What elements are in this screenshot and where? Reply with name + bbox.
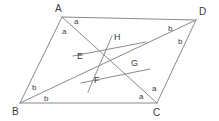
- vertex-label-D: D: [199, 7, 206, 17]
- angle-a-at-A-left: a: [62, 28, 66, 36]
- angle-b-at-B-upper: b: [32, 84, 36, 92]
- angle-a-at-C-left: a: [139, 93, 143, 101]
- segment-side-AD: [62, 17, 196, 20]
- angle-b-at-B-lower: b: [44, 95, 48, 103]
- angle-b-at-D-left: b: [168, 25, 172, 33]
- vertex-label-B: B: [12, 107, 19, 117]
- segment-side-DC: [157, 20, 196, 103]
- point-label-E: E: [77, 52, 83, 61]
- geometry-figure: A D B C E F G H a a b b b b a a: [0, 0, 219, 121]
- point-label-H: H: [114, 33, 121, 42]
- geometry-canvas: [0, 0, 219, 121]
- point-label-G: G: [131, 59, 138, 68]
- point-label-F: F: [94, 76, 100, 85]
- segment-transversal-lower: [81, 69, 150, 83]
- segment-side-AB: [20, 17, 62, 103]
- vertex-label-A: A: [55, 4, 62, 14]
- angle-b-at-D-right: b: [178, 38, 182, 46]
- angle-a-at-A-right: a: [74, 18, 78, 26]
- vertex-label-C: C: [153, 108, 160, 118]
- angle-a-at-C-right: a: [152, 85, 156, 93]
